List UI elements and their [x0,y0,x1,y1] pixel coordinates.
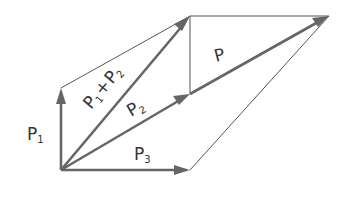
vector-diagram: P1 P3 P2 P1+P2 P [0,0,347,199]
label-p1-plus-p2: P1+P2 [79,62,127,113]
label-p3: P3 [134,144,151,165]
construction-line-p3-to-p [190,16,329,170]
label-p1: P1 [27,124,44,145]
vector-p1-arrow [56,88,66,170]
svg-text:P1+P2: P1+P2 [79,62,127,113]
svg-text:P: P [212,44,227,66]
label-p2: P2 [123,95,148,122]
vector-sum-arrow [61,16,190,170]
vector-p3-arrow [61,165,190,175]
label-resultant-p: P [212,44,227,66]
construction-line-p1-to-sum [61,16,190,88]
svg-text:P2: P2 [123,95,148,122]
vector-p-arrow [190,16,329,94]
